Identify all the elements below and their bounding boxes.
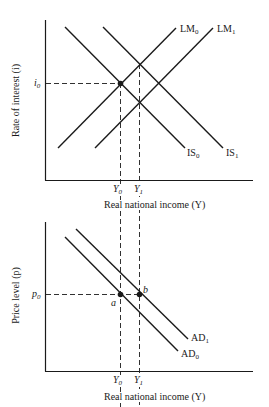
top-panel — [45, 20, 253, 407]
ad1-label: AD1 — [191, 333, 209, 345]
bottom-panel — [45, 222, 253, 372]
top-y-axis-label: Rate of interest (i) — [10, 56, 21, 146]
lm1-label: LM1 — [217, 24, 236, 36]
point-a-label: a — [111, 298, 116, 308]
bottom-y1-tick-label: Y1 — [134, 375, 143, 387]
is1-label: IS1 — [226, 148, 238, 160]
top-x-axis-label: Real national income (Y) — [104, 200, 205, 210]
bottom-y0-tick-label: Y0 — [113, 375, 122, 387]
p0-tick-label: p0 — [32, 289, 41, 301]
point-b — [137, 292, 143, 298]
bottom-y-axis-label: Price level (p) — [10, 261, 21, 331]
top-y0-tick-label: Y0 — [113, 184, 122, 196]
is1-curve — [103, 27, 223, 148]
ad1-curve — [76, 229, 188, 339]
is0-curve — [65, 27, 185, 148]
top-y1-tick-label: Y1 — [134, 184, 143, 196]
ad0-label: AD0 — [181, 349, 199, 361]
i0-tick-label: i0 — [34, 78, 40, 90]
lm1-curve — [95, 28, 213, 148]
equilibrium-point-top — [118, 81, 124, 87]
is0-label: IS0 — [187, 148, 199, 160]
point-b-label: b — [143, 285, 148, 295]
lm0-curve — [58, 28, 176, 148]
lm0-label: LM0 — [180, 24, 199, 36]
point-a — [118, 292, 124, 298]
bottom-x-axis-label: Real national income (Y) — [104, 392, 205, 402]
